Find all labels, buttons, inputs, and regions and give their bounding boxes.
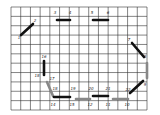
point-label: 3	[54, 11, 57, 15]
point-label: 18	[34, 74, 39, 78]
point-label: 20	[88, 87, 93, 91]
point-label: 1	[18, 36, 21, 40]
point-label: 22	[125, 88, 130, 92]
point-label: 2	[34, 19, 37, 23]
point-label: 10	[124, 103, 129, 107]
point-label: 4	[69, 11, 72, 15]
point-label: 14	[50, 103, 55, 107]
point-label: 16	[41, 55, 46, 59]
point-label: 7	[128, 38, 131, 42]
point-label: 17	[49, 77, 54, 81]
grid-diagram	[0, 0, 160, 115]
point-label: 15	[69, 103, 74, 107]
point-label: 21	[105, 87, 110, 91]
point-label: 8	[144, 55, 147, 59]
point-label: 9	[144, 83, 147, 87]
point-label: 18	[52, 87, 57, 91]
point-label: 6	[107, 11, 110, 15]
point-label: 11	[105, 103, 110, 107]
segment-7-8	[132, 43, 144, 57]
point-label: 12	[87, 103, 92, 107]
point-label: 5	[91, 11, 94, 15]
point-label: 19	[70, 87, 75, 91]
